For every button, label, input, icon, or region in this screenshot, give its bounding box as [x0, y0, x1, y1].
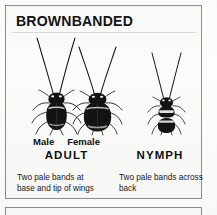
- nymph-svg: [143, 52, 189, 136]
- nymph-caption: Two pale bands across back: [119, 172, 205, 194]
- male-label: Male: [33, 136, 54, 147]
- nymph-pale-band-upper: [159, 110, 174, 113]
- figure-page: BROWNBANDED: [0, 0, 217, 215]
- nymph-illustration: [143, 52, 189, 136]
- nymph-caption-line2: back: [119, 183, 205, 194]
- female-adult-svg: [68, 46, 126, 136]
- page-title: BROWNBANDED: [16, 13, 133, 29]
- nymph-stage-label: NYMPH: [119, 149, 201, 161]
- next-panel-partial: [5, 207, 202, 215]
- female-label: Female: [67, 136, 100, 147]
- nymph-caption-line1: Two pale bands across: [119, 172, 205, 183]
- adult-sex-labels: Male Female: [14, 136, 119, 147]
- adult-stage-label: ADULT: [14, 149, 119, 161]
- nymph-body: [158, 118, 175, 133]
- adult-caption-line1: Two pale bands at: [17, 172, 117, 183]
- adult-caption-line2: base and tip of wings: [17, 183, 117, 194]
- adult-caption: Two pale bands at base and tip of wings: [17, 172, 117, 194]
- title-divider: [12, 32, 196, 33]
- illustration-stage: [6, 34, 201, 134]
- female-adult-illustration: [68, 46, 126, 136]
- brownbanded-panel: BROWNBANDED: [5, 5, 202, 199]
- nymph-pale-band-lower: [159, 120, 174, 122]
